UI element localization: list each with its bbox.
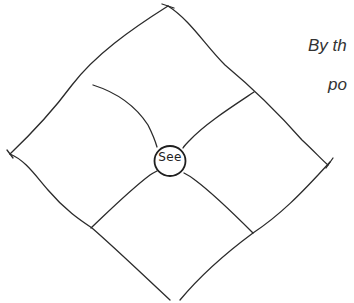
side-text-line-2: po: [328, 75, 347, 95]
outer-edge-top-right: [168, 6, 328, 165]
inner-line-upper-left: [93, 85, 157, 147]
inner-line-lower-left: [91, 171, 157, 228]
center-label: See: [150, 150, 190, 164]
corner-tick-top: [162, 4, 174, 8]
outer-edge-top-left: [10, 6, 168, 154]
inner-line-upper-right: [183, 92, 254, 148]
outer-edge-bottom-right: [180, 162, 330, 300]
corner-tick-right: [326, 158, 333, 168]
inner-line-lower-right: [184, 173, 253, 233]
side-text-line-1: By th: [308, 36, 347, 56]
outer-edge-bottom-left: [10, 154, 170, 300]
